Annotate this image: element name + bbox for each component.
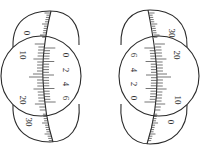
vernier-label: 4: [61, 82, 71, 87]
main-scale-label: 10: [173, 96, 183, 106]
vernier-label: 6: [129, 53, 139, 58]
main-scale-label: 10: [18, 51, 28, 61]
lower-lobe-outline: [121, 104, 187, 144]
vernier-caliper-diagram: 01020300246 30201006420: [0, 0, 202, 162]
vernier-label: 6: [61, 96, 71, 101]
right-vernier-figure: 30201006420: [119, 10, 199, 144]
main-scale-label: 30: [167, 29, 177, 39]
main-scale-label: 0: [166, 120, 176, 125]
main-scale-label: 20: [18, 96, 28, 106]
scale-line: [147, 10, 157, 144]
upper-lobe-outline: [13, 11, 79, 47]
vernier-label: 4: [129, 68, 139, 73]
main-scale-label: 30: [24, 118, 34, 128]
left-vernier-figure: 01020300246: [1, 11, 81, 142]
vernier-label: 0: [129, 96, 139, 101]
main-scale-label: 0: [22, 31, 32, 36]
vernier-label: 2: [61, 68, 71, 73]
vernier-label: 2: [129, 82, 139, 87]
vernier-label: 0: [61, 53, 71, 58]
main-scale-label: 20: [172, 51, 182, 61]
